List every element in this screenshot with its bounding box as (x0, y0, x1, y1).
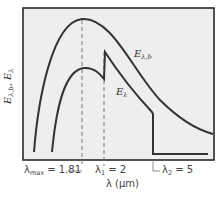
actual-curve-label: Eλ (116, 86, 127, 99)
lambda-2-label: λ2 = 5 (162, 164, 193, 177)
blackbody-curve-label: Eλ,b (134, 48, 152, 61)
plot-frame (23, 8, 214, 160)
spectral-emission-diagram: Eλ,b, Eλ Eλ,b Eλ λmax = 1.81 λ1 = 2 λ2 =… (0, 0, 223, 202)
lambda-2-leader (153, 160, 160, 171)
y-axis-label: Eλ,b, Eλ (2, 69, 15, 104)
lambda-max-label: λmax = 1.81 (24, 164, 81, 177)
x-axis-label: λ (μm) (106, 178, 139, 189)
lambda-1-label: λ1 = 2 (95, 164, 126, 177)
